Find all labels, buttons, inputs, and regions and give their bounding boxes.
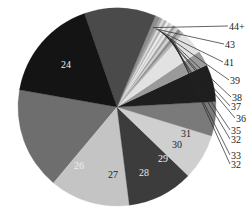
slice-label: 28 [139, 167, 149, 178]
leader-label: 36 [236, 113, 246, 124]
slice-label: 29 [158, 153, 168, 164]
leader-label: 32 [231, 134, 241, 145]
leader-label: 37 [231, 101, 241, 112]
leader-labels: 44+43413938373635323332 [224, 21, 246, 170]
leader-label: 43 [225, 39, 235, 50]
leader-label: 39 [230, 75, 240, 86]
slice-label: 30 [172, 139, 182, 150]
slice-label: 24 [61, 59, 71, 70]
slice-label: 31 [181, 128, 191, 139]
slice-label: 26 [74, 160, 84, 171]
leader-label: 44+ [229, 21, 245, 32]
slice-label: 27 [108, 169, 118, 180]
leader-label: 32 [231, 159, 241, 170]
pie-chart: 24262728293031 44+43413938373635323332 [0, 0, 249, 216]
leader-label: 41 [224, 57, 234, 68]
